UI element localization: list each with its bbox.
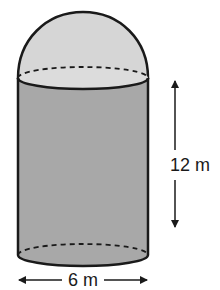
diameter-label: 6 m (68, 270, 98, 290)
height-label: 12 m (170, 155, 210, 175)
height-dimension: 12 m (170, 81, 210, 227)
cylinder-hemisphere-diagram: 12 m 6 m (0, 0, 220, 290)
diameter-dimension: 6 m (19, 270, 147, 290)
cylinder-body (18, 78, 148, 266)
